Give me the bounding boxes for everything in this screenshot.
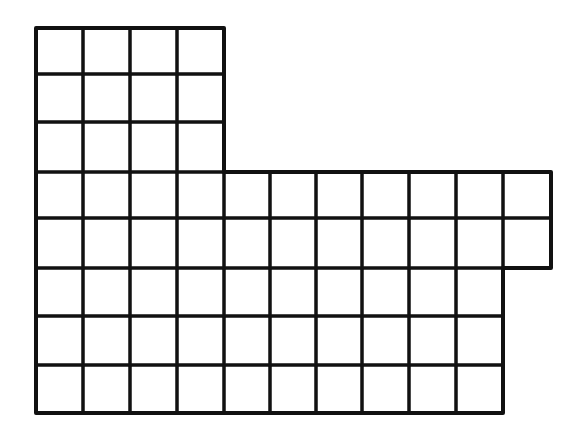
grid-square <box>130 28 177 74</box>
grid-square <box>83 365 130 413</box>
grid-square <box>177 74 224 122</box>
grid-square <box>130 268 177 316</box>
grid-cells <box>36 28 551 413</box>
grid-square <box>224 172 270 218</box>
grid-diagram <box>0 0 577 433</box>
grid-square <box>224 365 270 413</box>
grid-square <box>130 316 177 365</box>
grid-square <box>130 365 177 413</box>
grid-square <box>83 172 130 218</box>
grid-square <box>83 74 130 122</box>
grid-square <box>224 268 270 316</box>
grid-square <box>130 74 177 122</box>
grid-square <box>83 28 130 74</box>
grid-square <box>36 74 83 122</box>
grid-square <box>316 365 362 413</box>
grid-square <box>456 268 503 316</box>
grid-square <box>409 218 456 268</box>
grid-square <box>177 122 224 172</box>
grid-square <box>316 268 362 316</box>
grid-square <box>409 268 456 316</box>
grid-square <box>83 122 130 172</box>
grid-square <box>130 218 177 268</box>
grid-square <box>456 316 503 365</box>
grid-square <box>316 172 362 218</box>
grid-square <box>316 218 362 268</box>
grid-square <box>130 172 177 218</box>
grid-square <box>83 268 130 316</box>
grid-square <box>177 28 224 74</box>
grid-square <box>177 365 224 413</box>
grid-square <box>36 365 83 413</box>
grid-square <box>362 316 409 365</box>
grid-square <box>362 365 409 413</box>
grid-square <box>83 218 130 268</box>
grid-square <box>177 268 224 316</box>
grid-square <box>362 172 409 218</box>
grid-square <box>177 218 224 268</box>
grid-square <box>456 365 503 413</box>
grid-square <box>36 172 83 218</box>
grid-square <box>456 172 503 218</box>
grid-square <box>130 122 177 172</box>
grid-square <box>316 316 362 365</box>
grid-square <box>409 316 456 365</box>
grid-square <box>36 316 83 365</box>
grid-square <box>177 172 224 218</box>
grid-square <box>224 316 270 365</box>
grid-square <box>270 316 316 365</box>
grid-outline <box>36 28 551 413</box>
grid-square <box>270 218 316 268</box>
grid-square <box>409 172 456 218</box>
grid-square <box>503 218 551 268</box>
grid-square <box>36 218 83 268</box>
grid-square <box>270 268 316 316</box>
grid-square <box>177 316 224 365</box>
grid-square <box>224 218 270 268</box>
grid-square <box>270 172 316 218</box>
grid-square <box>36 28 83 74</box>
grid-square <box>362 268 409 316</box>
grid-square <box>36 268 83 316</box>
grid-square <box>83 316 130 365</box>
grid-square <box>456 218 503 268</box>
grid-square <box>270 365 316 413</box>
grid-square <box>36 122 83 172</box>
grid-square <box>503 172 551 218</box>
grid-square <box>362 218 409 268</box>
grid-square <box>409 365 456 413</box>
